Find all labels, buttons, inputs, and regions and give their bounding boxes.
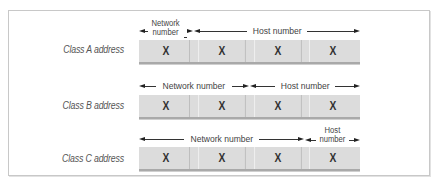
class-a-label: Class A address bbox=[27, 44, 124, 55]
class-b-network-span: Network number bbox=[139, 81, 249, 91]
octet-3: X bbox=[254, 95, 301, 117]
class-b-network-label: Network number bbox=[160, 81, 228, 91]
label-line-2: number bbox=[152, 28, 180, 37]
class-b-host-label: Host number bbox=[278, 81, 332, 91]
span-line bbox=[232, 86, 243, 87]
arrow-right-icon bbox=[354, 84, 360, 88]
class-c-network-span: Network number bbox=[139, 134, 304, 144]
octet-4: X bbox=[309, 147, 356, 169]
octet-3: X bbox=[254, 40, 301, 62]
span-line bbox=[145, 31, 148, 32]
span-line bbox=[311, 140, 316, 141]
class-a-octets: X X X X bbox=[139, 40, 360, 64]
class-a-host-span: Host number bbox=[194, 26, 360, 36]
span-line bbox=[259, 139, 298, 140]
class-c-octets: X X X X bbox=[139, 147, 360, 171]
octet-1: X bbox=[143, 147, 190, 169]
class-c-host-span: Host number bbox=[305, 124, 360, 146]
class-c-label: Class C address bbox=[27, 153, 124, 164]
octet-3: X bbox=[254, 147, 301, 169]
class-a-host-label: Host number bbox=[250, 26, 304, 36]
octet-4: X bbox=[309, 40, 356, 62]
class-a-network-span: Network number bbox=[139, 20, 193, 42]
octet-2: X bbox=[198, 147, 245, 169]
span-line bbox=[184, 37, 187, 38]
class-c-host-label: Host number bbox=[318, 126, 348, 144]
arrow-right-icon bbox=[243, 84, 249, 88]
arrow-right-icon bbox=[354, 138, 360, 142]
octet-1: X bbox=[143, 95, 190, 117]
octet-4: X bbox=[309, 95, 356, 117]
span-line bbox=[145, 139, 184, 140]
span-line bbox=[335, 86, 354, 87]
arrow-right-icon bbox=[187, 29, 193, 33]
span-line bbox=[256, 86, 275, 87]
class-b-label: Class B address bbox=[27, 100, 124, 111]
class-b-host-span: Host number bbox=[250, 81, 360, 91]
span-line bbox=[145, 86, 156, 87]
label-line-2: number bbox=[320, 135, 346, 144]
span-line bbox=[307, 31, 354, 32]
class-b-octets: X X X X bbox=[139, 95, 360, 119]
octet-1: X bbox=[143, 40, 190, 62]
arrow-right-icon bbox=[298, 137, 304, 141]
class-c-network-label: Network number bbox=[187, 134, 255, 144]
span-line bbox=[200, 31, 247, 32]
class-a-network-label: Network number bbox=[150, 19, 182, 37]
arrow-right-icon bbox=[354, 29, 360, 33]
octet-2: X bbox=[198, 40, 245, 62]
octet-2: X bbox=[198, 95, 245, 117]
